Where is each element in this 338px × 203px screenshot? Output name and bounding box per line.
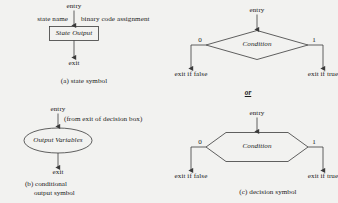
conditional-exit-label: exit <box>53 169 64 177</box>
caption-b: (b) conditional output symbol <box>25 180 75 197</box>
caption-a: (a) state symbol <box>61 78 107 86</box>
diamond-true-value: 1 <box>312 36 316 44</box>
diamond-true-exit-label: exit if true <box>308 71 338 79</box>
hexagon-false-branch <box>191 147 206 171</box>
caption-c: (c) decision symbol <box>239 189 296 197</box>
state-entry-label: entry <box>67 3 82 11</box>
hexagon-false-exit-label: exit if false <box>175 173 208 181</box>
decision-box-source-annotation: (from exit of decision box) <box>64 116 142 124</box>
hexagon-false-value: 0 <box>198 138 202 146</box>
caption-b-line2: output symbol <box>25 189 75 198</box>
output-variables-text: Output Variables <box>33 137 82 145</box>
conditional-entry-label: entry <box>51 106 66 114</box>
hexagon-true-branch <box>308 147 323 171</box>
state-exit-label: exit <box>69 60 80 68</box>
hexagon-true-exit-label: exit if true <box>308 173 338 181</box>
diamond-false-value: 0 <box>198 36 202 44</box>
hexagon-true-value: 1 <box>312 138 316 146</box>
state-output-text: State Output <box>56 30 93 38</box>
diamond-false-exit-label: exit if false <box>175 71 208 79</box>
diamond-false-branch <box>191 45 206 69</box>
caption-b-line1: (b) conditional <box>25 180 75 189</box>
diamond-condition-text: Condition <box>242 41 271 49</box>
binary-code-assignment-annotation: binary code assignment <box>81 16 150 24</box>
hexagon-condition-text: Condition <box>242 143 271 151</box>
state-name-annotation: state name <box>37 16 68 24</box>
or-separator: or <box>245 88 252 97</box>
hexagon-entry-label: entry <box>250 110 265 118</box>
diamond-true-branch <box>308 45 323 69</box>
diamond-entry-label: entry <box>250 7 265 15</box>
